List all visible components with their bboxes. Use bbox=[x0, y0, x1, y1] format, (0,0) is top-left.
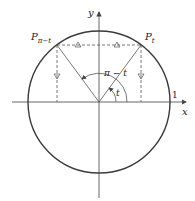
equal-tick-right bbox=[114, 42, 120, 47]
p-pi-minus-t-label: Pπ−t bbox=[30, 31, 51, 45]
equal-tick-left bbox=[75, 42, 81, 47]
x-axis-label: x bbox=[182, 106, 188, 117]
angle-pi-minus-t-label: π − t bbox=[103, 68, 127, 78]
unit-circle-diagram: y x 1 Pπ−t Pt π − t t bbox=[0, 0, 195, 201]
angle-t-label: t bbox=[116, 88, 120, 98]
one-label: 1 bbox=[172, 90, 178, 100]
radius-to-p-pi-minus-t bbox=[57, 45, 99, 102]
p-t-label: Pt bbox=[144, 31, 155, 45]
y-axis-label: y bbox=[87, 7, 94, 18]
angle-arc-t bbox=[109, 88, 116, 102]
